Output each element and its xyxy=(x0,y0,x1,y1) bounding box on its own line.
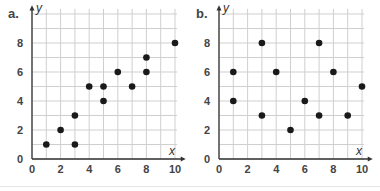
x-tick-label: 8 xyxy=(143,163,149,175)
x-tick-label: 0 xyxy=(216,163,222,175)
scatter-plots-figure: 024681002468xya.024681002468xyb. xyxy=(0,0,380,191)
data-points xyxy=(43,40,178,148)
data-point xyxy=(100,98,107,105)
x-axis-label: x xyxy=(168,144,176,158)
data-point xyxy=(302,98,309,105)
divider xyxy=(0,186,380,187)
x-tick-label: 10 xyxy=(169,163,181,175)
y-axis-arrow-icon xyxy=(217,5,222,10)
data-point xyxy=(57,127,64,134)
data-point xyxy=(43,141,50,148)
data-point xyxy=(259,112,266,119)
x-axis-arrow-icon xyxy=(181,157,186,162)
panel-label: b. xyxy=(196,6,208,21)
x-tick-label: 4 xyxy=(86,163,93,175)
data-point xyxy=(316,40,323,47)
y-tick-label: 2 xyxy=(17,124,23,136)
y-axis-label: y xyxy=(222,1,230,15)
data-point xyxy=(344,112,351,119)
data-point xyxy=(100,83,107,90)
data-point xyxy=(72,141,79,148)
data-point xyxy=(72,112,79,119)
y-axis-label: y xyxy=(35,1,43,15)
y-tick-label: 8 xyxy=(17,37,23,49)
data-point xyxy=(230,69,237,76)
y-axis-arrow-icon xyxy=(30,5,35,10)
data-point xyxy=(287,127,294,134)
data-point xyxy=(129,83,136,90)
data-point xyxy=(359,83,366,90)
data-point xyxy=(316,112,323,119)
x-tick-label: 2 xyxy=(245,163,251,175)
data-point xyxy=(86,83,93,90)
scatter-chart-b: 024681002468xyb. xyxy=(196,1,373,175)
y-tick-label: 6 xyxy=(204,66,210,78)
x-tick-label: 4 xyxy=(273,163,280,175)
y-tick-label: 0 xyxy=(204,153,210,165)
y-tick-label: 2 xyxy=(204,124,210,136)
data-point xyxy=(259,40,266,47)
data-point xyxy=(330,69,337,76)
y-tick-label: 0 xyxy=(17,153,23,165)
data-point xyxy=(115,69,122,76)
x-axis-arrow-icon xyxy=(368,157,373,162)
y-tick-label: 8 xyxy=(204,37,210,49)
x-tick-label: 10 xyxy=(356,163,368,175)
data-point xyxy=(230,98,237,105)
x-tick-label: 6 xyxy=(115,163,121,175)
data-point xyxy=(172,40,179,47)
x-tick-label: 6 xyxy=(302,163,308,175)
x-axis-label: x xyxy=(355,144,363,158)
data-point xyxy=(143,54,150,61)
y-tick-label: 4 xyxy=(204,95,211,107)
x-tick-label: 8 xyxy=(330,163,336,175)
panel-label: a. xyxy=(8,6,19,21)
data-point xyxy=(143,69,150,76)
scatter-chart-a: 024681002468xya. xyxy=(8,1,186,175)
y-tick-label: 4 xyxy=(17,95,24,107)
data-point xyxy=(273,69,280,76)
grid xyxy=(219,9,364,159)
y-tick-label: 6 xyxy=(17,66,23,78)
x-tick-label: 2 xyxy=(58,163,64,175)
x-tick-label: 0 xyxy=(29,163,35,175)
